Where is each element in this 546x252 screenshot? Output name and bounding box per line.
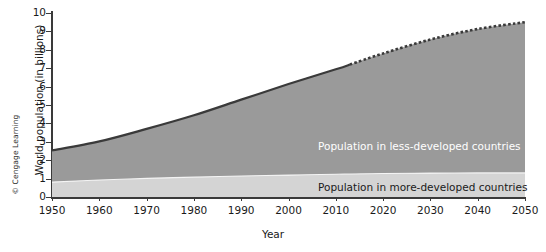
x-axis-title: Year — [0, 228, 546, 240]
y-tick-mark — [46, 50, 52, 51]
population-area-chart: © Cengage Learning World population (in … — [0, 0, 546, 252]
x-tick-label: 2000 — [275, 204, 302, 216]
x-tick-label: 1960 — [86, 204, 113, 216]
y-tick-label: 6 — [18, 81, 46, 92]
x-tick-mark — [241, 197, 242, 201]
stacked-area-svg — [52, 13, 525, 197]
x-tick-mark — [52, 197, 53, 201]
x-tick-label: 1970 — [133, 204, 160, 216]
x-tick-mark — [99, 197, 100, 201]
y-tick-mark — [46, 31, 52, 32]
x-tick-mark — [525, 197, 526, 201]
y-tick-label: 10 — [18, 7, 46, 18]
x-tick-label: 2050 — [512, 204, 539, 216]
x-tick-mark — [430, 197, 431, 201]
x-tick-mark — [289, 197, 290, 201]
y-tick-mark — [46, 123, 52, 124]
y-tick-mark — [46, 13, 52, 14]
annotation-more-developed: Population in more-developed countries — [318, 181, 527, 193]
y-tick-mark — [46, 179, 52, 180]
y-tick-mark — [46, 142, 52, 143]
y-tick-label: 4 — [18, 117, 46, 128]
x-axis-tick-labels: 1950196019701980199020002010202020302040… — [0, 200, 546, 222]
y-tick-label: 3 — [18, 136, 46, 147]
y-tick-mark — [46, 68, 52, 69]
y-tick-label: 8 — [18, 44, 46, 55]
y-tick-label: 2 — [18, 154, 46, 165]
y-tick-mark — [46, 160, 52, 161]
y-tick-mark — [46, 105, 52, 106]
y-tick-label: 5 — [18, 99, 46, 110]
x-tick-mark — [336, 197, 337, 201]
area-less-developed — [52, 22, 525, 197]
x-tick-label: 2010 — [322, 204, 349, 216]
x-tick-label: 2030 — [417, 204, 444, 216]
y-tick-mark — [46, 197, 52, 198]
x-tick-mark — [147, 197, 148, 201]
y-tick-label: 7 — [18, 62, 46, 73]
plot-area — [52, 13, 525, 197]
x-tick-label: 1980 — [181, 204, 208, 216]
x-tick-mark — [383, 197, 384, 201]
y-tick-label: 9 — [18, 25, 46, 36]
annotation-less-developed: Population in less-developed countries — [318, 140, 521, 152]
x-tick-label: 1950 — [39, 204, 66, 216]
x-tick-label: 2040 — [464, 204, 491, 216]
x-tick-mark — [478, 197, 479, 201]
x-tick-label: 2020 — [370, 204, 397, 216]
y-tick-mark — [46, 87, 52, 88]
y-tick-label: 1 — [18, 173, 46, 184]
x-tick-label: 1990 — [228, 204, 255, 216]
x-tick-mark — [194, 197, 195, 201]
